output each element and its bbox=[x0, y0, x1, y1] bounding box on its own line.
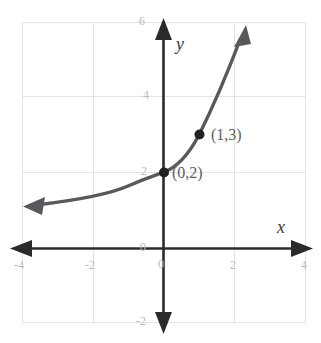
y-tick-label-minus-2: -2 bbox=[136, 315, 146, 327]
point-label-1-3: (1,3) bbox=[211, 127, 242, 143]
x-tick-label-minus-4: -4 bbox=[14, 259, 24, 271]
x-axis-arrow-left bbox=[10, 240, 32, 257]
y-axis-arrow-up bbox=[155, 18, 172, 40]
graph-figure: 6 4 2 0 -2 -4 -2 0 2 4 y x (1,3) (0,2) bbox=[0, 0, 321, 343]
y-tick-label-0: 0 bbox=[140, 241, 146, 253]
point-label-0-2: (0,2) bbox=[172, 165, 203, 181]
x-axis-arrow-right bbox=[291, 240, 313, 257]
graph-canvas bbox=[0, 0, 321, 343]
x-tick-label-4: 4 bbox=[301, 259, 307, 271]
y-tick-label-4: 4 bbox=[143, 89, 149, 101]
curve-arrow-right bbox=[234, 25, 251, 47]
x-tick-label-2: 2 bbox=[230, 259, 236, 271]
x-tick-label-minus-2: -2 bbox=[85, 259, 95, 271]
y-axis-label: y bbox=[176, 35, 184, 53]
curve-path bbox=[36, 40, 240, 205]
x-axis bbox=[10, 240, 313, 257]
y-tick-label-6: 6 bbox=[139, 15, 145, 27]
point-0-2[interactable] bbox=[159, 168, 169, 178]
x-axis-label: x bbox=[277, 218, 285, 236]
exponential-curve bbox=[23, 25, 251, 215]
x-tick-label-0: 0 bbox=[158, 258, 164, 270]
curve-arrow-left bbox=[23, 197, 45, 215]
y-tick-label-2: 2 bbox=[141, 165, 147, 177]
point-1-3[interactable] bbox=[195, 130, 205, 140]
